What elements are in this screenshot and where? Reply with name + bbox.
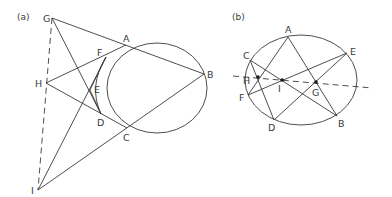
point-label-h: H bbox=[35, 78, 42, 89]
point-marker-g bbox=[314, 80, 318, 84]
segment-i-b bbox=[38, 74, 204, 190]
point-label-a: A bbox=[285, 24, 292, 35]
point-label-i: I bbox=[278, 83, 281, 94]
diagram-canvas: (a) GABFHEDCI (b) ABCDEFGHI bbox=[0, 0, 392, 197]
point-label-a: A bbox=[123, 33, 130, 44]
segment-a-b bbox=[288, 37, 337, 116]
point-label-g: G bbox=[43, 13, 50, 24]
point-label-e: E bbox=[350, 46, 356, 57]
point-label-f: F bbox=[97, 47, 102, 58]
point-label-e: E bbox=[94, 84, 100, 95]
figure-b-caption: (b) bbox=[232, 12, 245, 22]
point-label-d: D bbox=[268, 122, 275, 133]
point-marker-h bbox=[256, 75, 260, 79]
figure-a: (a) GABFHEDCI bbox=[17, 12, 214, 196]
segment-i-f bbox=[38, 57, 106, 190]
segment-h-a bbox=[46, 45, 126, 83]
segment-c-b bbox=[250, 60, 337, 116]
point-label-d: D bbox=[97, 117, 104, 128]
point-label-c: C bbox=[123, 132, 130, 143]
point-label-b: B bbox=[207, 69, 214, 80]
dashed-line-g-i bbox=[38, 18, 52, 190]
figure-a-caption: (a) bbox=[17, 12, 30, 22]
segment-c-d bbox=[250, 60, 274, 120]
segment-e-d bbox=[274, 53, 347, 120]
point-label-g: G bbox=[312, 87, 319, 98]
point-label-c: C bbox=[243, 50, 250, 61]
point-label-h: H bbox=[243, 75, 250, 86]
figure-b: (b) ABCDEFGHI bbox=[232, 12, 372, 133]
segment-g-b bbox=[52, 18, 204, 74]
figure-b-ellipse bbox=[245, 35, 357, 125]
segment-h-c bbox=[46, 83, 127, 128]
point-label-f: F bbox=[239, 92, 244, 103]
point-marker-i bbox=[280, 78, 284, 82]
point-label-i: I bbox=[31, 185, 34, 196]
point-label-b: B bbox=[338, 118, 345, 129]
